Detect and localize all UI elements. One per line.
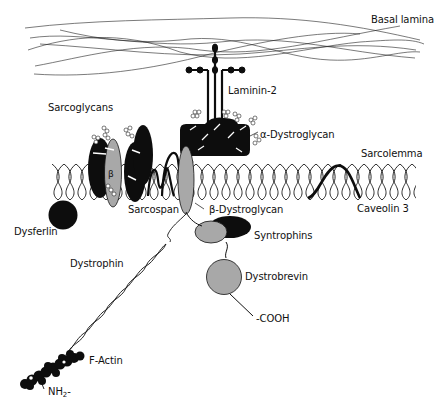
label-sarcospan: Sarcospan bbox=[128, 204, 179, 216]
label-cooh-terminus: -COOH bbox=[256, 313, 289, 325]
basal-lamina-fibers bbox=[25, 18, 424, 75]
dystrophin-rod bbox=[62, 214, 186, 364]
label-dystrobrevin: Dystrobrevin bbox=[245, 271, 308, 283]
label-syntrophins: Syntrophins bbox=[254, 230, 312, 242]
nh2-dash: - bbox=[67, 386, 71, 397]
dgc-diagram: Basal lamina Laminin-2 Sarcoglycans β α-… bbox=[0, 0, 436, 402]
label-alpha-dystroglycan: α-Dystroglycan bbox=[260, 129, 335, 141]
label-beta-sarcoglycan: β bbox=[108, 168, 114, 180]
label-sarcolemma: Sarcolemma bbox=[361, 148, 423, 160]
label-f-actin: F-Actin bbox=[89, 355, 123, 367]
dystrobrevin-sphere bbox=[207, 260, 242, 295]
label-dystrophin: Dystrophin bbox=[70, 258, 124, 270]
f-actin-filament bbox=[20, 350, 85, 390]
label-laminin-2: Laminin-2 bbox=[228, 85, 277, 97]
nh2-text: NH bbox=[48, 386, 63, 397]
label-sarcoglycans: Sarcoglycans bbox=[48, 102, 113, 114]
label-nh2-terminus: NH2- bbox=[48, 386, 71, 398]
label-caveolin-3: Caveolin 3 bbox=[357, 203, 409, 215]
label-beta-dystroglycan: β-Dystroglycan bbox=[209, 204, 283, 216]
label-dysferlin: Dysferlin bbox=[14, 226, 58, 238]
label-basal-lamina: Basal lamina bbox=[371, 14, 434, 26]
syntrophin-pair bbox=[195, 216, 251, 243]
